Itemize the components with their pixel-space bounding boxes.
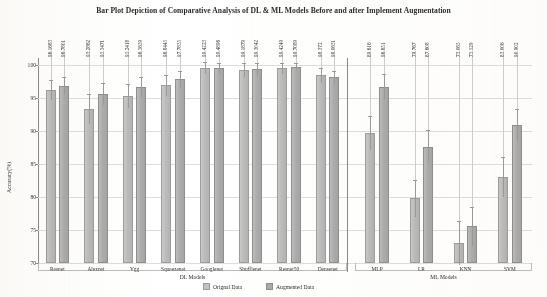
bar-value-label: 89.616 xyxy=(366,42,372,57)
error-bar-cap xyxy=(280,63,284,64)
error-bar xyxy=(141,77,142,97)
error-bar xyxy=(296,63,297,71)
error-bar xyxy=(321,68,322,83)
bar-value-label: 96.1683 xyxy=(47,40,53,57)
legend-swatch-augmented xyxy=(266,283,273,290)
error-bar xyxy=(244,63,245,76)
bar-value-label: 95.5471 xyxy=(99,40,105,57)
y-tick-mark xyxy=(35,164,38,165)
error-bar-cap xyxy=(101,83,105,84)
label-leader-line xyxy=(428,54,429,130)
y-axis-line xyxy=(38,58,39,263)
label-leader-line xyxy=(370,54,371,116)
bar-value-label: 96.7801 xyxy=(60,40,66,57)
label-leader-line xyxy=(503,54,504,157)
bar-value-label: 93.2862 xyxy=(85,40,91,57)
y-tick-mark xyxy=(35,98,38,99)
bar-value-label: 96.8445 xyxy=(162,40,168,57)
error-bar-cap xyxy=(87,94,91,95)
bar xyxy=(277,68,287,263)
error-bar-cap xyxy=(203,62,207,63)
legend-swatch-orignal xyxy=(203,283,210,290)
legend-item-augmented[interactable]: Augmented Data xyxy=(266,283,314,290)
error-bar-cap xyxy=(413,180,417,181)
label-leader-line xyxy=(459,54,460,221)
bar xyxy=(136,87,146,263)
bar-value-label: 96.5659 xyxy=(137,40,143,57)
error-bar xyxy=(503,157,504,197)
error-bar xyxy=(459,221,460,265)
y-axis-title: Accuracy(%) xyxy=(8,58,18,263)
error-bar-cap xyxy=(368,116,372,117)
error-bar-cap xyxy=(49,80,53,81)
legend-label-orignal: Orignal Data xyxy=(213,284,242,290)
bar xyxy=(214,68,224,263)
error-bar xyxy=(415,180,416,217)
bar-value-label: 99.3042 xyxy=(253,40,259,57)
error-bar xyxy=(64,77,65,96)
y-tick-mark xyxy=(35,197,38,198)
error-bar xyxy=(89,94,90,123)
bar xyxy=(98,94,108,263)
error-bar-cap xyxy=(382,74,386,75)
chart-legend: Orignal Data Augmented Data xyxy=(203,283,314,290)
bar xyxy=(175,79,185,263)
label-leader-line xyxy=(128,54,129,84)
error-bar-cap xyxy=(457,221,461,222)
label-leader-line xyxy=(166,54,167,75)
bar-value-label: 98.372 xyxy=(317,42,323,57)
error-bar-cap xyxy=(319,68,323,69)
y-tick-mark xyxy=(35,65,38,66)
error-bar xyxy=(282,63,283,74)
error-bar xyxy=(370,116,371,150)
bar xyxy=(365,133,375,263)
bar xyxy=(84,109,94,263)
plot-area xyxy=(38,58,532,263)
error-bar-cap xyxy=(470,207,474,208)
error-bar-cap xyxy=(178,71,182,72)
error-bar-cap xyxy=(126,84,130,85)
error-bar-cap xyxy=(332,71,336,72)
error-bar xyxy=(180,71,181,88)
label-leader-line xyxy=(51,54,52,80)
bar xyxy=(379,87,389,263)
panel-divider xyxy=(347,58,348,272)
legend-item-orignal[interactable]: Orignal Data xyxy=(203,283,242,290)
bar-value-label: 98.0631 xyxy=(330,40,336,57)
bar-value-label: 96.651 xyxy=(380,42,386,57)
error-bar-cap xyxy=(164,75,168,76)
bar-value-label: 90.902 xyxy=(513,42,519,57)
bar xyxy=(239,70,249,263)
error-bar xyxy=(166,75,167,96)
bar-value-label: 83.006 xyxy=(499,42,505,57)
error-bar xyxy=(51,80,52,100)
error-bar xyxy=(334,71,335,84)
bar-value-label: 75.529 xyxy=(468,42,474,57)
error-bar-cap xyxy=(515,109,519,110)
label-leader-line xyxy=(415,54,416,180)
error-bar xyxy=(428,130,429,163)
bar-value-label: 99.4223 xyxy=(201,40,207,57)
bar-value-label: 99.4249 xyxy=(278,40,284,57)
bar-value-label: 87.608 xyxy=(424,42,430,57)
bar-value-label: 73.065 xyxy=(455,42,461,57)
error-bar xyxy=(472,207,473,245)
error-bar xyxy=(517,109,518,141)
error-bar-cap xyxy=(217,63,221,64)
error-bar xyxy=(384,74,385,99)
bar xyxy=(200,68,210,263)
bar xyxy=(123,96,133,263)
bar xyxy=(46,90,56,263)
bar xyxy=(161,85,171,263)
y-axis-title-text: Accuracy(%) xyxy=(6,162,12,193)
bar-value-label: 99.7089 xyxy=(292,40,298,57)
bar xyxy=(316,75,326,263)
error-bar xyxy=(128,84,129,108)
bar-value-label: 99.1879 xyxy=(240,40,246,57)
error-bar-cap xyxy=(242,63,246,64)
bar xyxy=(59,86,69,263)
label-leader-line xyxy=(472,54,473,207)
chart-title: Bar Plot Depiction of Comparative Analys… xyxy=(0,6,547,15)
bar-value-label: 79.767 xyxy=(411,42,417,57)
error-bar-cap xyxy=(62,77,66,78)
